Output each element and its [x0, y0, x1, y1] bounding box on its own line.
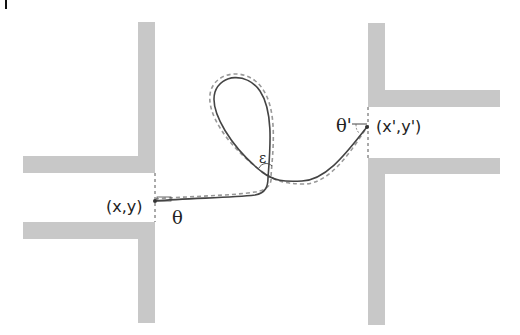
- start-point: [153, 199, 157, 203]
- start-angle-label: θ: [172, 209, 183, 227]
- end-angle-label: θ': [336, 117, 352, 135]
- end-point: [365, 125, 369, 129]
- end-angle-arc: [356, 124, 360, 133]
- actual-path: [155, 78, 367, 201]
- crossing-angle-label: ε: [259, 151, 266, 165]
- left-wall: [23, 22, 155, 323]
- trajectory-diagram: (x,y) (x',y') θ θ' ε: [0, 0, 520, 335]
- right-wall: [368, 23, 500, 325]
- end-point-label: (x',y'): [376, 119, 421, 135]
- panel-mark: [5, 0, 7, 9]
- start-point-label: (x,y): [106, 199, 143, 215]
